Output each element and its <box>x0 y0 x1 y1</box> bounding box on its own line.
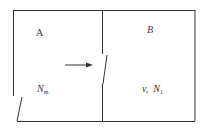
partition-gate <box>103 55 107 84</box>
velocity-symbol: v, <box>142 83 148 94</box>
quantity-symbol: N <box>153 83 160 94</box>
chamber-a-label: A <box>36 28 43 38</box>
flow-arrow-head-icon <box>86 63 93 68</box>
chamber-b-quantity: v, N1 <box>142 84 163 95</box>
diagram-canvas <box>0 0 207 131</box>
quantity-symbol: N <box>37 83 44 94</box>
chamber-a-quantity: Nm <box>37 84 48 95</box>
quantity-subscript: 1 <box>160 89 163 95</box>
chamber-b-label: B <box>147 25 153 35</box>
quantity-subscript: m <box>44 89 49 95</box>
left-gate <box>17 97 22 121</box>
